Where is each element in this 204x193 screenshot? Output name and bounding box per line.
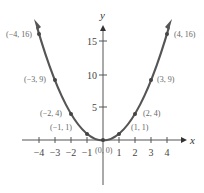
x-tick-label: 2 xyxy=(133,147,138,158)
parabola-chart: −4 −3 −2 −1 1 2 3 4 5 10 15 x y (−4, 16)… xyxy=(0,0,204,193)
point-label: (0, 0) xyxy=(95,146,113,155)
x-tick-label: −3 xyxy=(50,147,61,158)
point-label: (−4, 16) xyxy=(6,30,32,39)
y-axis-label: y xyxy=(99,9,105,21)
y-tick-label: 10 xyxy=(87,70,97,81)
point-label: (2, 4) xyxy=(143,109,161,118)
curve-arrow-left-icon xyxy=(34,19,41,30)
x-tick-label: 3 xyxy=(149,147,154,158)
curve-arrow-right-icon xyxy=(165,19,172,30)
y-tick-label: 15 xyxy=(87,36,97,47)
x-tick-label: −1 xyxy=(82,147,93,158)
x-axis-label: x xyxy=(189,134,195,146)
point-label: (−1, 1) xyxy=(50,123,72,132)
point-label: (1, 1) xyxy=(131,123,149,132)
point-label: (4, 16) xyxy=(174,30,196,39)
point-label: (3, 9) xyxy=(157,75,175,84)
x-tick-label: 1 xyxy=(117,147,122,158)
x-tick-label: −4 xyxy=(34,147,45,158)
point-label: (−2, 4) xyxy=(40,109,62,118)
y-tick-label: 5 xyxy=(92,102,97,113)
point-label: (−3, 9) xyxy=(24,75,46,84)
x-tick-label: −2 xyxy=(66,147,77,158)
x-tick-label: 4 xyxy=(165,147,170,158)
